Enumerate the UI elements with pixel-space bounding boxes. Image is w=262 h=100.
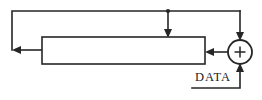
block-input-left-arrow-icon	[205, 48, 214, 56]
output-left-arrow-icon	[12, 46, 21, 54]
diagram-canvas: DATA	[0, 0, 262, 100]
feedback-adder-diagram: DATA	[0, 0, 262, 100]
data-label: DATA	[195, 70, 231, 84]
delay-block[interactable]	[42, 37, 205, 64]
junction-dot-icon	[166, 9, 170, 13]
